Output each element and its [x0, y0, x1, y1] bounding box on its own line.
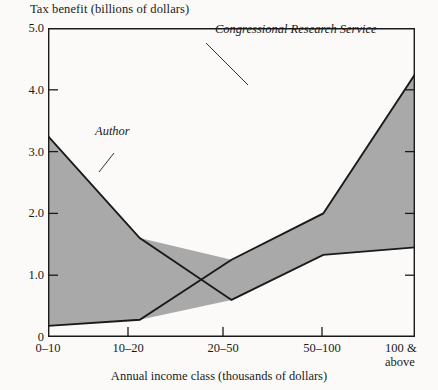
x-tick-label-3-text: 50–100 [303, 341, 341, 355]
x-tick-label-0: 0–10 [18, 342, 78, 356]
y-tick-label-4: 4.0 [10, 83, 44, 98]
x-tick-label-1-text: 10–20 [112, 341, 143, 355]
y-tick-label-5: 5.0 [10, 21, 44, 36]
crs-leader-line [206, 43, 248, 85]
x-tick-label-4-text: 100 & [385, 341, 417, 355]
series-band [48, 74, 415, 326]
annotation-leader-lines [99, 43, 248, 172]
x-tick-label-2-text: 20–50 [207, 341, 238, 355]
y-axis-title: Tax benefit (billions of dollars) [30, 2, 189, 17]
x-tick-label-1: 10–20 [98, 342, 158, 356]
y-axis-tick-labels: 5.0 4.0 3.0 2.0 1.0 0 [6, 0, 44, 390]
plot-svg [48, 28, 415, 337]
author-leader-line [99, 153, 114, 172]
author-annotation: Author [95, 124, 130, 139]
x-tick-label-3: 50–100 [288, 342, 356, 356]
plot-area: Author Congressional Research Service [48, 28, 415, 337]
x-tick-label-2: 20–50 [193, 342, 253, 356]
x-tick-label-4-text-2: above [385, 355, 415, 369]
x-axis-title: Annual income class (thousands of dollar… [0, 369, 438, 384]
crs-annotation: Congressional Research Service [215, 22, 377, 37]
y-tick-label-2: 2.0 [10, 206, 44, 221]
y-tick-label-3: 3.0 [10, 145, 44, 160]
tax-benefit-chart: Tax benefit (billions of dollars) 5.0 4.… [0, 0, 438, 390]
y-tick-label-1: 1.0 [10, 268, 44, 283]
x-tick-label-0-text: 0–10 [36, 341, 61, 355]
x-tick-label-4: 100 & above [385, 342, 437, 369]
